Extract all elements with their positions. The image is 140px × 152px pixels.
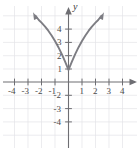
x-axis — [3, 79, 137, 86]
x-tick-label-4: 4 — [120, 87, 125, 96]
y-axis-label: y — [73, 2, 77, 12]
y-tick-label--4: -4 — [54, 118, 62, 127]
gridlines — [3, 6, 137, 148]
y-tick-label-1: 1 — [58, 65, 63, 74]
y-tick-label-2: 2 — [57, 52, 62, 61]
x-tick-label-1: 1 — [80, 87, 85, 96]
y-tick-label-3: 3 — [57, 38, 62, 47]
x-tick-label-2: 2 — [93, 87, 98, 96]
x-tick-label-3: 3 — [107, 87, 112, 96]
y-tick-label-4: 4 — [57, 25, 62, 34]
y-tick-label--2: -2 — [54, 91, 62, 100]
x-tick-label--2: -2 — [35, 87, 43, 96]
y-tick-label--3: -3 — [54, 105, 62, 114]
graph-figure: y -4 -3 -2 -1 1 2 3 4 4 3 2 1 -2 -3 -4 — [0, 0, 140, 152]
coordinate-plane — [0, 0, 140, 152]
x-tick-label--4: -4 — [8, 87, 16, 96]
x-tick-label--3: -3 — [22, 87, 30, 96]
y-axis — [65, 7, 72, 148]
